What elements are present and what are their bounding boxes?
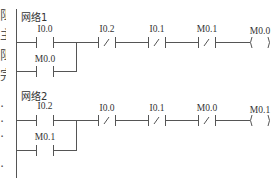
no-contact-icon bbox=[37, 37, 54, 48]
nc-contact-icon bbox=[199, 37, 216, 48]
coil-icon bbox=[251, 37, 270, 48]
no-contact-icon bbox=[37, 145, 54, 156]
nc-contact-icon bbox=[99, 115, 116, 126]
nc-contact-icon bbox=[99, 37, 116, 48]
no-contact-icon bbox=[37, 115, 54, 126]
contact-label: I0.2 bbox=[30, 101, 60, 111]
branch-contact-label: M0.0 bbox=[30, 54, 60, 64]
branch-contact-label: M0.1 bbox=[30, 132, 60, 142]
contact-label: I0.2 bbox=[92, 24, 122, 34]
nc-contact-icon bbox=[149, 115, 166, 126]
contact-label: M0.1 bbox=[192, 24, 222, 34]
network-1-label: 网络1 bbox=[21, 9, 47, 24]
nc-contact-icon bbox=[149, 37, 166, 48]
no-contact-icon bbox=[37, 66, 54, 77]
contact-label: I0.1 bbox=[142, 24, 172, 34]
nc-contact-icon bbox=[199, 115, 216, 126]
coil-label: M0.1 bbox=[245, 105, 275, 115]
coil-label: M0.0 bbox=[245, 26, 275, 36]
contact-label: I0.0 bbox=[30, 24, 60, 34]
contact-label: I0.0 bbox=[92, 103, 122, 113]
coil-icon bbox=[251, 115, 270, 126]
contact-label: I0.1 bbox=[142, 103, 172, 113]
contact-label: M0.0 bbox=[192, 103, 222, 113]
